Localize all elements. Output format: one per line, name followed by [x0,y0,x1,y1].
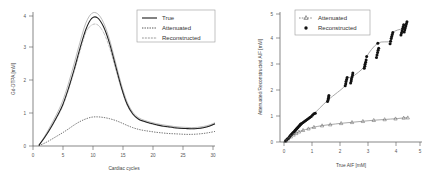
scatter-point [391,31,394,34]
scatter-point [314,112,317,115]
left-legend-label-attenuated: Attenuated [162,25,191,31]
right-ytick-3: 3 [270,62,273,67]
right-y-ticks: 0 1 2 3 4 5 [270,12,280,145]
curve-attenuated [39,117,215,146]
left-panel-aif-time-curves: 0 1 2 3 4 0 5 10 15 20 25 3 [0,0,222,174]
scatter-point [351,71,354,74]
right-panel-aif-scatter: 0 1 2 3 4 5 0 1 2 3 4 5 True [222,0,437,174]
circle-marker-icon [304,26,307,29]
left-xtick-0: 0 [32,153,35,158]
right-xtick-3: 3 [367,149,370,154]
scatter-point [346,76,349,79]
right-yaxis-label: Attenuated/Reconstructed AIF [mM] [258,39,263,115]
right-xtick-1: 1 [311,149,314,154]
left-ytick-2: 2 [23,78,26,83]
left-xtick-30: 30 [210,153,216,158]
left-plot-svg: 0 1 2 3 4 0 5 10 15 20 25 3 [0,0,222,174]
left-legend-label-true: True [162,15,175,21]
right-legend-label-reconstructed: Reconstructed [318,25,357,31]
right-ytick-0: 0 [270,140,273,145]
left-yaxis-label: Gd-DTPA [mM] [11,63,16,95]
right-xtick-4: 4 [395,149,398,154]
scatter-point [327,94,330,97]
figure-container: 0 1 2 3 4 0 5 10 15 20 25 3 [0,0,437,174]
right-legend-label-attenuated: Attenuated [318,15,347,21]
left-x-ticks: 0 5 10 15 20 25 30 [32,146,216,158]
scatter-point [365,55,368,58]
left-xtick-20: 20 [150,153,156,158]
scatter-points-attenuated [284,116,410,142]
right-plot-svg: 0 1 2 3 4 5 0 1 2 3 4 5 True [222,0,437,174]
right-legend-box [295,10,370,35]
left-xtick-15: 15 [120,153,126,158]
left-xtick-25: 25 [180,153,186,158]
right-xtick-5: 5 [419,149,422,154]
left-xtick-5: 5 [62,153,65,158]
left-xtick-10: 10 [90,153,96,158]
right-xtick-2: 2 [339,149,342,154]
left-ytick-4: 4 [23,14,26,19]
scatter-point [405,20,408,23]
right-legend[interactable]: Attenuated Reconstructed [295,10,370,35]
right-xtick-0: 0 [283,149,286,154]
scatter-point [376,53,379,56]
scatter-point [389,42,392,45]
left-ytick-0: 0 [23,144,26,149]
scatter-points-reconstructed [284,20,409,142]
left-y-ticks: 0 1 2 3 4 [23,14,33,149]
left-legend-label-reconstructed: Reconstructed [162,35,201,41]
right-ytick-5: 5 [270,12,273,17]
scatter-point [389,40,392,43]
right-ytick-4: 4 [270,36,273,41]
left-ytick-3: 3 [23,45,26,50]
left-ytick-1: 1 [23,111,26,116]
left-legend[interactable]: True Attenuated Reconstructed [137,10,215,42]
right-xaxis-label: True AIF [mM] [336,163,366,168]
scatter-point [376,42,379,45]
right-ytick-2: 2 [270,88,273,93]
right-ytick-1: 1 [270,114,273,119]
right-x-ticks: 0 1 2 3 4 5 [283,142,422,154]
scatter-point [377,47,380,50]
scatter-point [365,59,368,62]
scatter-point [375,56,378,59]
left-xaxis-label: Cardiac cycles [108,166,140,171]
